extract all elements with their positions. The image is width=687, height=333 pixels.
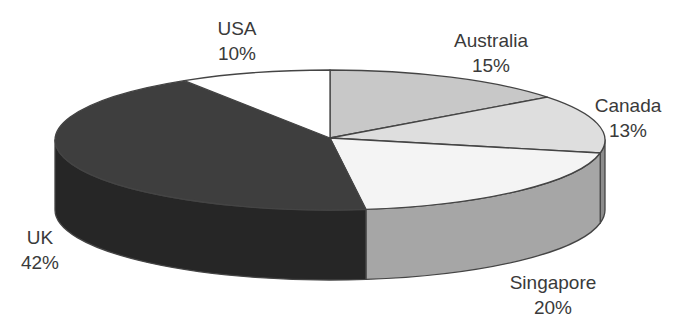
slice-label-canada: Canada13%	[595, 93, 662, 143]
slice-label-australia: Australia15%	[454, 28, 528, 78]
slice-label-uk: UK42%	[21, 225, 59, 275]
slice-percent: 42%	[21, 250, 59, 275]
slice-percent: 20%	[510, 295, 597, 320]
slice-percent: 10%	[217, 41, 256, 66]
slice-percent: 15%	[454, 53, 528, 78]
slice-label-singapore: Singapore20%	[510, 270, 597, 320]
slice-name: USA	[217, 16, 256, 41]
slice-percent: 13%	[595, 118, 662, 143]
slice-name: Australia	[454, 28, 528, 53]
slice-label-usa: USA10%	[217, 16, 256, 66]
slice-name: Singapore	[510, 270, 597, 295]
slice-name: Canada	[595, 93, 662, 118]
slice-name: UK	[21, 225, 59, 250]
